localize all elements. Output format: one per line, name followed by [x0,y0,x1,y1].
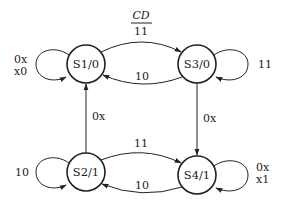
state-label: S2/1 [73,165,99,179]
state-label: S4/1 [184,168,210,182]
transition-label: 10 [135,70,149,83]
transition-label: 10 [135,179,149,192]
transition-label: x0 [14,65,27,78]
state-s2: S2/1 [67,153,105,191]
transition-s2-s1: 0x [86,84,106,153]
transition-label: 11 [134,137,148,150]
transition-label: 0x [92,110,106,123]
self-loop-s2: 10 [15,158,69,188]
transition-label: 11 [258,58,272,71]
transition-label: x1 [256,173,269,186]
transition-s4-s2: 10 [102,179,182,193]
input-header: CD [131,9,152,23]
state-label: S1/0 [73,57,99,71]
transition-s3-s1: 10 [103,70,182,84]
self-loop-s3: 11 [214,50,272,80]
self-loop-s4: 0x x1 [214,161,270,191]
state-s4: S4/1 [178,156,216,194]
self-loop-s1: 0x x0 [14,50,69,80]
transition-s3-s4: 0x [197,83,217,155]
transition-s1-s3: 11 [101,25,181,52]
transition-label: 0x [203,112,217,125]
state-diagram: CD 11 10 11 10 0x 0 [0,0,284,203]
state-s3: S3/0 [178,45,216,83]
state-label: S3/0 [184,57,210,71]
state-s1: S1/0 [67,45,105,83]
transition-label: 11 [134,25,148,38]
transition-s2-s4: 11 [101,137,181,163]
transition-label: 10 [15,166,29,179]
input-variables-label: CD [132,9,149,22]
